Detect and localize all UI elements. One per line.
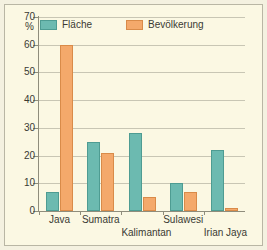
x-axis-label-irian-jaya: Irian Jaya <box>204 227 245 238</box>
chart-legend: Fläche Bevölkerung <box>40 19 204 30</box>
bar-sumatra-bevoelkerung <box>101 153 114 211</box>
legend-label-bevoelkerung: Bevölkerung <box>148 19 204 30</box>
bar-sumatra-flaeche <box>87 142 100 211</box>
bar-irian-jaya-flaeche <box>211 150 224 211</box>
y-tick-label-10: 10 <box>7 178 35 188</box>
x-tick-mark-2 <box>121 211 122 215</box>
legend-item-flaeche: Fläche <box>40 19 92 30</box>
chart-figure: % 010203040506070 JavaSumatraKalimantanS… <box>0 0 267 250</box>
plot-area <box>39 17 245 211</box>
y-tick-label-70: 70 <box>7 12 35 22</box>
x-tick-mark-4 <box>204 211 205 215</box>
y-axis-unit-label: % <box>14 22 34 32</box>
x-axis-label-java: Java <box>39 214 80 225</box>
y-tick-label-30: 30 <box>7 123 35 133</box>
legend-item-bevoelkerung: Bevölkerung <box>126 19 204 30</box>
y-tick-label-60: 60 <box>7 40 35 50</box>
bar-sulawesi-flaeche <box>170 183 183 211</box>
y-tick-label-50: 50 <box>7 67 35 77</box>
gridline-0 <box>39 211 245 212</box>
bar-java-flaeche <box>46 192 59 211</box>
legend-label-flaeche: Fläche <box>62 19 92 30</box>
y-tick-label-40: 40 <box>7 95 35 105</box>
x-axis-label-kalimantan: Kalimantan <box>121 227 162 238</box>
bar-java-bevoelkerung <box>60 45 73 211</box>
bar-kalimantan-bevoelkerung <box>143 197 156 211</box>
gridline-70 <box>39 17 245 18</box>
bar-irian-jaya-bevoelkerung <box>225 208 238 211</box>
teal-swatch <box>40 20 57 30</box>
bar-sulawesi-bevoelkerung <box>184 192 197 211</box>
x-axis-label-sumatra: Sumatra <box>80 214 121 225</box>
orange-swatch <box>126 20 143 30</box>
x-axis-label-sulawesi: Sulawesi <box>163 214 204 225</box>
y-tick-label-20: 20 <box>7 151 35 161</box>
bar-kalimantan-flaeche <box>129 133 142 211</box>
y-tick-label-0: 0 <box>7 206 35 216</box>
